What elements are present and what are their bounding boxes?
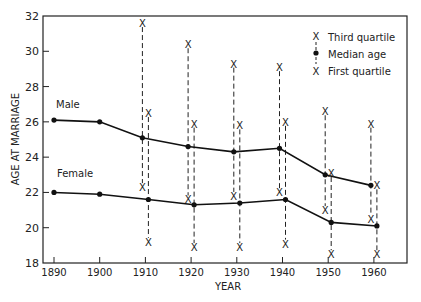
x-tick-label: 1920 (178, 267, 203, 278)
median-point (283, 197, 288, 202)
y-axis-ticks: 1820222426283032 (25, 10, 49, 270)
third-quartile-marker: X (191, 119, 198, 130)
first-quartile-marker: X (322, 205, 329, 216)
legend-median-dot (313, 50, 318, 55)
third-quartile-marker: X (322, 106, 329, 117)
median-point (237, 200, 242, 205)
y-tick-label: 28 (25, 81, 39, 94)
legend: X X Third quartile Median age First quar… (313, 31, 396, 77)
x-tick-label: 1960 (361, 267, 386, 278)
median-point (231, 149, 236, 154)
x-axis-label: YEAR (214, 281, 241, 292)
y-tick-label: 18 (25, 257, 39, 270)
third-quartile-marker: X (185, 39, 192, 50)
y-tick-label: 20 (25, 222, 39, 235)
first-quartile-marker: X (328, 249, 335, 260)
y-tick-label: 24 (25, 151, 39, 164)
first-quartile-marker: X (276, 187, 283, 198)
x-tick-label: 1930 (224, 267, 249, 278)
first-quartile-marker: X (145, 237, 152, 248)
median-point (146, 197, 151, 202)
third-quartile-marker: X (373, 180, 380, 191)
first-quartile-marker: X (367, 214, 374, 225)
series-label-male: Male (56, 99, 80, 110)
first-quartile-marker: X (185, 194, 192, 205)
median-point (192, 202, 197, 207)
third-quartile-marker: X (282, 117, 289, 128)
third-quartile-marker: X (367, 119, 374, 130)
y-tick-label: 26 (25, 116, 39, 129)
first-quartile-marker: X (236, 242, 243, 253)
third-quartile-marker: X (328, 168, 335, 179)
y-tick-label: 22 (25, 186, 39, 199)
age-at-marriage-chart: 1820222426283032 18901900191019201930194… (0, 0, 421, 302)
median-point (277, 146, 282, 151)
first-quartile-marker: X (282, 239, 289, 250)
median-point (186, 144, 191, 149)
quartile-ranges (142, 27, 377, 250)
x-tick-label: 1900 (87, 267, 112, 278)
x-tick-label: 1910 (133, 267, 158, 278)
y-tick-label: 32 (25, 10, 39, 23)
third-quartile-marker: X (236, 120, 243, 131)
median-point (97, 192, 102, 197)
x-tick-label: 1950 (315, 267, 340, 278)
x-tick-label: 1890 (41, 267, 66, 278)
legend-q3-label: Third quartile (327, 32, 395, 43)
median-point (140, 135, 145, 140)
y-axis-label: AGE AT MARRIAGE (10, 93, 21, 185)
median-point (329, 220, 334, 225)
first-quartile-marker: X (191, 242, 198, 253)
median-point (97, 119, 102, 124)
third-quartile-marker: X (276, 62, 283, 73)
median-point (374, 223, 379, 228)
x-axis-ticks: 18901900191019201930194019501960 (41, 257, 386, 278)
first-quartile-marker: X (230, 191, 237, 202)
series-label-female: Female (57, 168, 93, 179)
median-point (51, 190, 56, 195)
legend-median-label: Median age (328, 49, 386, 60)
y-tick-label: 30 (25, 45, 39, 58)
legend-q3-marker: X (313, 31, 320, 42)
legend-q1-marker: X (313, 66, 320, 77)
third-quartile-marker: X (139, 18, 146, 29)
first-quartile-marker: X (139, 182, 146, 193)
x-tick-label: 1940 (270, 267, 295, 278)
third-quartile-marker: X (145, 108, 152, 119)
first-quartile-marker: X (373, 249, 380, 260)
third-quartile-marker: X (230, 59, 237, 70)
legend-q1-label: First quartile (328, 66, 391, 77)
median-point (51, 117, 56, 122)
